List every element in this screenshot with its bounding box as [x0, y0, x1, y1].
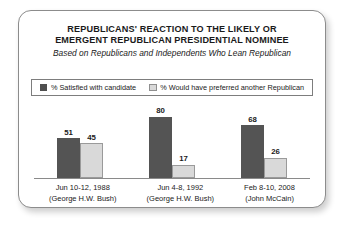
bar-value-label: 45 — [87, 133, 96, 142]
bar-group: 80 17 — [149, 106, 195, 178]
bar-column-preferred-another: 17 — [172, 106, 195, 178]
bar-column-preferred-another: 45 — [80, 106, 103, 178]
legend-label-preferred-another: % Would have preferred another Republica… — [160, 83, 304, 92]
bar-column-satisfied: 80 — [149, 106, 172, 178]
bar-value-label: 17 — [179, 154, 188, 163]
bar-satisfied — [241, 125, 264, 178]
x-axis-label-date: Jun 10-12, 1988 — [49, 183, 117, 194]
x-axis-label-group: Jun 4-8, 1992 (George H.W. Bush) — [147, 183, 215, 204]
bar-value-label: 80 — [156, 106, 165, 115]
chart-figure: REPUBLICANS' REACTION TO THE LIKELY OR E… — [18, 10, 326, 208]
chart-legend: % Satisfied with candidate % Would have … — [31, 79, 313, 96]
x-axis-label-date: Jun 4-8, 1992 — [147, 183, 215, 194]
x-axis-labels: Jun 10-12, 1988 (George H.W. Bush) Jun 4… — [34, 183, 310, 204]
x-axis-label-candidate: (John McCain) — [244, 194, 295, 205]
bar-groups: 51 45 80 17 68 — [34, 106, 310, 178]
x-axis-label-candidate: (George H.W. Bush) — [147, 194, 215, 205]
bar-preferred-another — [80, 143, 103, 178]
bar-column-satisfied: 68 — [241, 106, 264, 178]
chart-title-line-2: EMERGENT REPUBLICAN PRESIDENTIAL NOMINEE — [19, 35, 325, 46]
legend-item-satisfied: % Satisfied with candidate — [40, 83, 136, 92]
chart-subtitle: Based on Republicans and Independents Wh… — [19, 47, 325, 60]
bar-group: 68 26 — [241, 106, 287, 178]
bar-satisfied — [57, 138, 80, 178]
legend-swatch-preferred-another-icon — [149, 84, 157, 92]
chart-plot-area: 51 45 80 17 68 — [34, 106, 310, 199]
bar-group: 51 45 — [57, 106, 103, 178]
bar-value-label: 68 — [248, 115, 257, 124]
bar-column-preferred-another: 26 — [264, 106, 287, 178]
bar-value-label: 26 — [271, 147, 280, 156]
legend-item-preferred-another: % Would have preferred another Republica… — [149, 83, 304, 92]
bar-preferred-another — [264, 158, 287, 178]
x-axis-label-group: Jun 10-12, 1988 (George H.W. Bush) — [49, 183, 117, 204]
x-axis-label-group: Feb 8-10, 2008 (John McCain) — [244, 183, 295, 204]
bar-satisfied — [149, 117, 172, 179]
x-axis-label-date: Feb 8-10, 2008 — [244, 183, 295, 194]
bar-preferred-another — [172, 165, 195, 178]
legend-label-satisfied: % Satisfied with candidate — [51, 83, 136, 92]
x-axis-label-candidate: (George H.W. Bush) — [49, 194, 117, 205]
bar-value-label: 51 — [64, 128, 73, 137]
bar-column-satisfied: 51 — [57, 106, 80, 178]
chart-title-line-1: REPUBLICANS' REACTION TO THE LIKELY OR — [19, 24, 325, 35]
legend-swatch-satisfied-icon — [40, 84, 48, 92]
chart-title-block: REPUBLICANS' REACTION TO THE LIKELY OR E… — [19, 24, 325, 59]
x-axis-line — [34, 178, 310, 179]
